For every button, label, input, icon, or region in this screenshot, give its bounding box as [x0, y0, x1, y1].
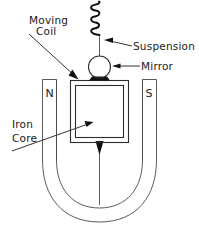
mirror-label: Mirror — [141, 60, 174, 72]
moving-coil-leader-line — [29, 34, 76, 77]
iron-core-label-line2: Core — [12, 132, 37, 144]
suspension-leader — [104, 38, 132, 47]
coil-inner-rect — [76, 86, 124, 138]
suspension-label: Suspension — [133, 40, 195, 52]
moving-coil-leader — [29, 34, 79, 80]
mirror-circle — [89, 56, 111, 78]
mirror-leader — [112, 64, 140, 69]
moving-coil-frame — [71, 81, 129, 143]
mirror-leader-arrowhead — [112, 64, 121, 69]
suspension-spring — [91, 2, 100, 57]
south-pole-label: S — [146, 87, 153, 100]
suspension-leader-line — [110, 41, 132, 46]
pointer-arrowhead — [96, 141, 104, 155]
coil-outer-rect — [71, 81, 129, 143]
suspension-leader-arrowhead — [104, 38, 113, 44]
mirror-assembly — [89, 56, 111, 81]
spring-helix — [91, 2, 100, 36]
iron-core-leader-arrowhead — [85, 121, 94, 127]
diagram-canvas: N S Mov — [0, 0, 199, 234]
moving-coil-label-line2: Coil — [36, 25, 56, 37]
north-pole-label: N — [46, 87, 54, 100]
galvanometer-diagram: N S Mov — [0, 0, 199, 234]
iron-core-label-line1: Iron — [12, 118, 33, 130]
pointer-assembly — [96, 141, 104, 205]
